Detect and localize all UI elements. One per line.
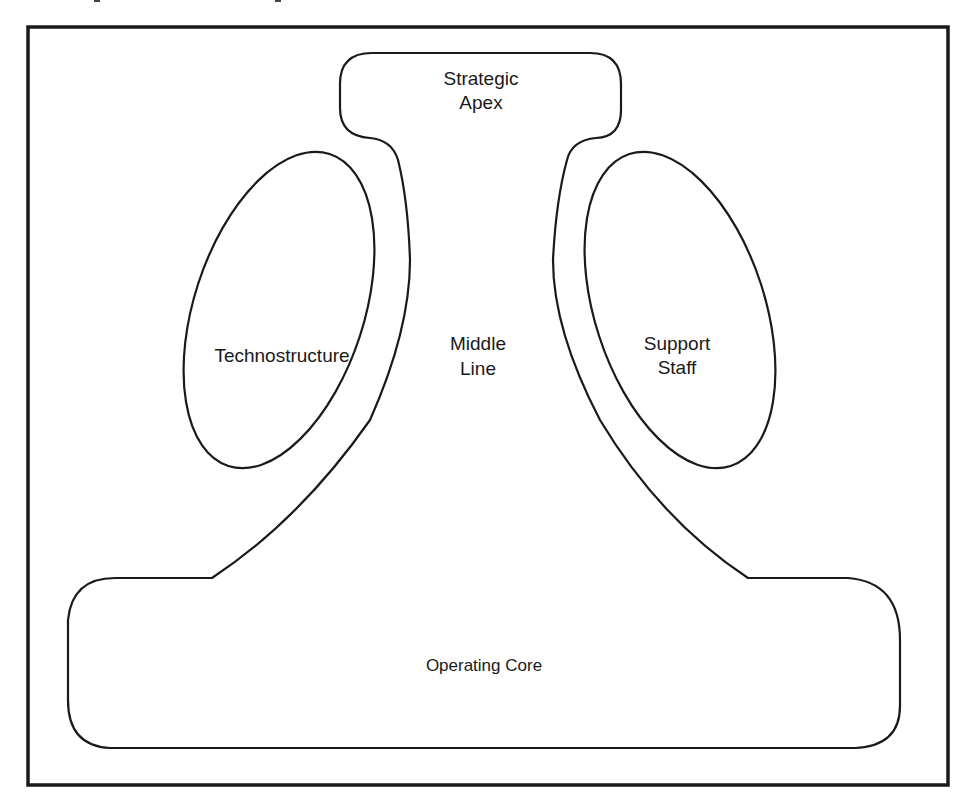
support-staff-label: Staff	[658, 357, 697, 378]
strategic-apex-label: Strategic	[444, 68, 519, 89]
operating-core-label: Operating Core	[426, 656, 542, 675]
main-body-outline	[68, 53, 900, 748]
strategic-apex-label: Apex	[459, 92, 503, 113]
organization-structure-diagram: Strategic Apex Technostructure Middle Li…	[0, 0, 967, 806]
technostructure-ellipse	[147, 128, 410, 492]
support-staff-label: Support	[644, 333, 711, 354]
cropped-text-fragment	[275, 0, 281, 2]
technostructure-label: Technostructure	[214, 345, 349, 366]
support-staff-ellipse	[548, 128, 811, 492]
middle-line-label: Middle	[450, 333, 506, 354]
cropped-text-fragment	[94, 0, 100, 2]
middle-line-label: Line	[460, 358, 496, 379]
